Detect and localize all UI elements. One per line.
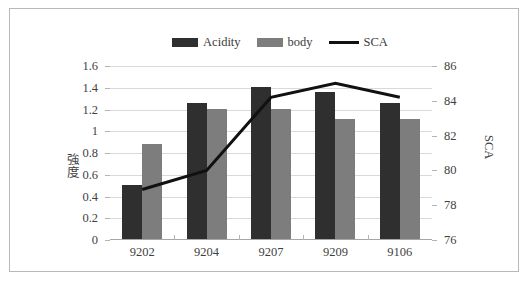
legend-item-acidity[interactable]: Acidity <box>172 36 241 49</box>
sca-line-series <box>110 66 432 240</box>
x-axis-label-9207: 9207 <box>259 245 284 260</box>
chart-frame: Acidity body SCA 強度 SCA 00.20.40.60.811.… <box>9 8 519 272</box>
legend-swatch-body <box>257 38 283 47</box>
y-axis-tick-right <box>432 170 437 171</box>
y-axis-tick-right <box>432 136 437 137</box>
chart-legend: Acidity body SCA <box>160 33 400 51</box>
legend-swatch-acidity <box>172 38 198 47</box>
y-axis-label-right: 78 <box>444 198 457 213</box>
y-axis-tick-left <box>105 240 110 241</box>
legend-item-sca[interactable]: SCA <box>329 36 388 49</box>
y-axis-label-left: 1.4 <box>82 80 98 95</box>
y-axis-title-left: 強度 <box>65 153 78 179</box>
y-axis-label-right: 86 <box>444 59 457 74</box>
x-axis-label-9202: 9202 <box>130 245 155 260</box>
legend-label-sca: SCA <box>364 36 388 49</box>
y-axis-label-left: 0.4 <box>82 189 98 204</box>
sca-polyline[interactable] <box>142 83 400 189</box>
y-axis-tick-right <box>432 205 437 206</box>
y-axis-label-left: 1.6 <box>82 59 98 74</box>
y-axis-label-left: 0.6 <box>82 167 98 182</box>
y-axis-tick-right <box>432 240 437 241</box>
legend-label-acidity: Acidity <box>203 36 241 49</box>
plot-area: 00.20.40.60.811.21.41.6767880828486 <box>110 66 432 240</box>
legend-label-body: body <box>288 36 313 49</box>
y-axis-tick-right <box>432 101 437 102</box>
y-axis-label-right: 82 <box>444 128 457 143</box>
y-axis-tick-right <box>432 66 437 67</box>
y-axis-label-right: 84 <box>444 93 457 108</box>
y-axis-label-right: 76 <box>444 233 457 248</box>
y-axis-label-left: 0.2 <box>82 211 98 226</box>
legend-line-sca <box>329 41 359 44</box>
x-axis-label-9106: 9106 <box>387 245 412 260</box>
y-axis-label-left: 1 <box>92 124 98 139</box>
y-axis-label-right: 80 <box>444 163 457 178</box>
x-axis-label-9209: 9209 <box>323 245 348 260</box>
legend-item-body[interactable]: body <box>257 36 313 49</box>
y-axis-label-left: 0.8 <box>82 146 98 161</box>
chart-figure: Acidity body SCA 強度 SCA 00.20.40.60.811.… <box>0 0 530 282</box>
x-axis-label-9204: 9204 <box>194 245 219 260</box>
y-axis-label-left: 1.2 <box>82 102 98 117</box>
y-axis-title-right: SCA <box>482 135 495 159</box>
y-axis-label-left: 0 <box>92 233 98 248</box>
